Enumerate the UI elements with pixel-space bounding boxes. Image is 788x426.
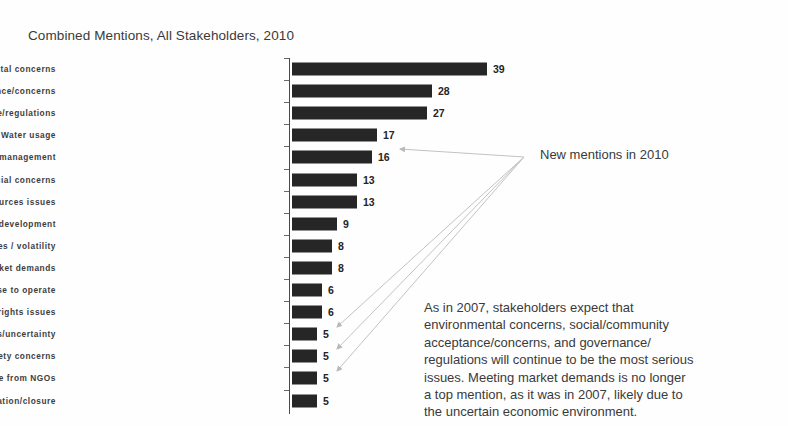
bar-value-label: 6 <box>328 306 334 318</box>
bar-chart-row: Environmental concerns39 <box>0 58 560 80</box>
category-label: Cost pressures / volatility <box>0 241 56 251</box>
annotation-line: environmental concerns, social/community <box>424 316 776 333</box>
bar <box>292 306 322 319</box>
category-label: Governance/regulations <box>0 108 56 118</box>
bar-chart-row: Social/community acceptance/concerns28 <box>0 80 560 102</box>
bar-value-label: 5 <box>323 350 329 362</box>
category-label: Water usage <box>1 130 56 140</box>
bar-value-label: 28 <box>438 85 450 97</box>
bar-chart-row: Financial concerns13 <box>0 169 560 191</box>
bar-value-label: 13 <box>363 174 375 186</box>
bar-value-label: 8 <box>338 240 344 252</box>
bar-value-label: 5 <box>323 372 329 384</box>
bar-value-label: 13 <box>363 196 375 208</box>
bar-chart-row: License to operate6 <box>0 279 560 301</box>
bar <box>292 107 427 120</box>
callout-new-mentions-label: New mentions in 2010 <box>540 147 669 162</box>
bar-chart-row: Resource access/management16 <box>0 146 560 168</box>
bar <box>292 195 357 208</box>
category-label: Role of / pressure from NGOs <box>0 373 56 383</box>
annotation-line: regulations will continue to be the most… <box>424 351 776 368</box>
annotation-line: issues. Meeting market demands is no lon… <box>424 369 776 386</box>
category-label: License to operate <box>0 285 56 295</box>
page-title: Combined Mentions, All Stakeholders, 201… <box>28 28 294 43</box>
bar <box>292 328 317 341</box>
bar <box>292 173 357 186</box>
bar-chart-row: Water usage17 <box>0 124 560 146</box>
bar-chart-row: Meeting market demands8 <box>0 257 560 279</box>
slide-canvas: Combined Mentions, All Stakeholders, 201… <box>0 0 788 426</box>
category-label: Financial concerns <box>0 175 56 185</box>
bar-chart-row: Governance/regulations27 <box>0 102 560 124</box>
category-label: Health/safety concerns <box>0 351 56 361</box>
bar <box>292 350 317 363</box>
bar <box>292 129 377 142</box>
category-label: Human resources issues <box>0 197 56 207</box>
bar-value-label: 27 <box>433 107 445 119</box>
bar <box>292 217 337 230</box>
bar-value-label: 16 <box>378 151 390 163</box>
annotation-line: As in 2007, stakeholders expect that <box>424 299 776 316</box>
bar-value-label: 5 <box>323 395 329 407</box>
bar-value-label: 5 <box>323 328 329 340</box>
category-label: Sustainable development <box>0 219 56 229</box>
bar <box>292 63 487 76</box>
bar-chart-row: Cost pressures / volatility8 <box>0 235 560 257</box>
bar <box>292 239 332 252</box>
bar-value-label: 9 <box>343 218 349 230</box>
category-label: Economic issues/uncertainty <box>0 329 56 339</box>
bar-chart-row: Human resources issues13 <box>0 191 560 213</box>
bar <box>292 284 322 297</box>
bar <box>292 372 317 385</box>
annotation-line: a top mention, as it was in 2007, likely… <box>424 386 776 403</box>
bar <box>292 151 372 164</box>
bar-value-label: 8 <box>338 262 344 274</box>
category-axis-line <box>289 58 290 414</box>
annotation-line: acceptance/concerns, and governance/ <box>424 334 776 351</box>
category-label: Environmental concerns <box>0 64 56 74</box>
annotation-textbox: As in 2007, stakeholders expect that env… <box>424 299 776 421</box>
annotation-line: the uncertain economic environment. <box>424 403 776 420</box>
category-label: Mine rehabilitation/closure <box>0 396 56 406</box>
bar <box>292 394 317 407</box>
bar <box>292 261 332 274</box>
bar-value-label: 17 <box>383 129 395 141</box>
category-label: Meeting market demands <box>0 263 56 273</box>
category-label: Resource access/management <box>0 152 56 162</box>
category-label: Social/community acceptance/concerns <box>0 86 56 96</box>
category-label: Human rights issues <box>0 307 56 317</box>
bar <box>292 85 432 98</box>
bar-value-label: 39 <box>493 63 505 75</box>
bar-value-label: 6 <box>328 284 334 296</box>
bar-chart-row: Sustainable development9 <box>0 213 560 235</box>
